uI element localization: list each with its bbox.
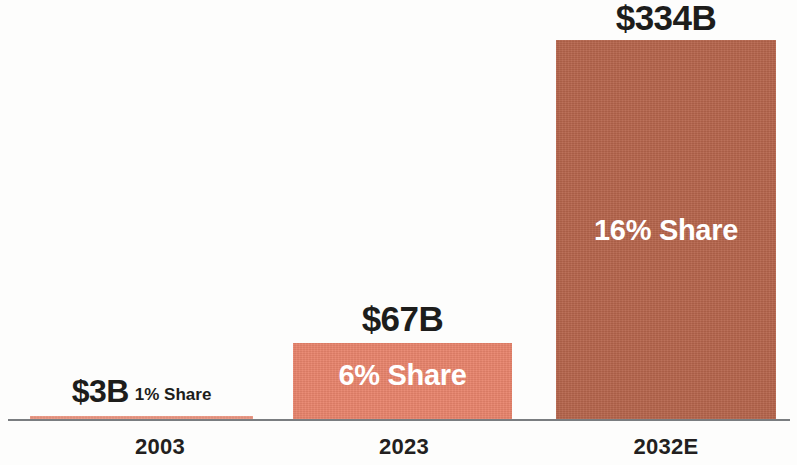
x-axis-label-2003: 2003: [60, 434, 260, 460]
value-label-2023: $67B: [293, 299, 512, 339]
share-label-2032e: 16% Share: [556, 214, 776, 247]
value-label-2003: $3B1% Share: [30, 373, 253, 415]
share-label-2023: 6% Share: [293, 359, 512, 392]
x-axis-label-2023: 2023: [304, 434, 504, 460]
share-label-2003: 1% Share: [135, 385, 212, 404]
plot-area: $3B1% Share $67B $334B 6% Share 16% Shar…: [0, 0, 797, 422]
x-axis-line: [8, 419, 790, 421]
x-axis-label-2032e: 2032E: [566, 434, 766, 460]
bar-chart: $3B1% Share $67B $334B 6% Share 16% Shar…: [0, 0, 797, 465]
value-label-2032e: $334B: [556, 0, 776, 38]
value-label-2003-amount: $3B: [72, 373, 129, 409]
